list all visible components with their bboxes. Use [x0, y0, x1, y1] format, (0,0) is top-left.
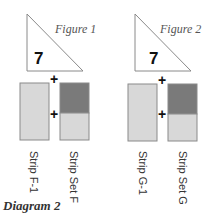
- figure-2: Figure 2 7 + + Strip G-1 Strip Set G: [128, 14, 201, 205]
- triangle-2-number: 7: [149, 49, 158, 68]
- strip-f-1: [20, 83, 49, 140]
- diagram-canvas: Figure 1 7 + + Strip F-1 Strip Set F Fig…: [0, 0, 211, 218]
- strip-set-g-light: [168, 114, 197, 141]
- plus-icon: +: [50, 71, 58, 87]
- strip-g-1-label: Strip G-1: [137, 151, 149, 195]
- plus-icon: +: [50, 106, 58, 122]
- plus-icon: +: [158, 106, 166, 122]
- figure-1-label: Figure 1: [54, 22, 96, 36]
- strip-set-g-label: Strip Set G: [177, 151, 189, 205]
- strip-set-f-label: Strip Set F: [68, 151, 80, 203]
- strip-set-f-light: [60, 113, 89, 140]
- figure-1: Figure 1 7 + + Strip F-1 Strip Set F: [20, 14, 96, 203]
- strip-set-g-dark: [168, 84, 197, 114]
- diagram-title: Diagram 2: [3, 198, 60, 214]
- triangle-1-number: 7: [34, 49, 43, 68]
- strip-f-1-label: Strip F-1: [28, 151, 40, 193]
- figure-2-label: Figure 2: [159, 22, 201, 36]
- strip-g-1: [128, 84, 157, 141]
- strip-set-f-dark: [60, 83, 89, 113]
- plus-icon: +: [158, 72, 166, 88]
